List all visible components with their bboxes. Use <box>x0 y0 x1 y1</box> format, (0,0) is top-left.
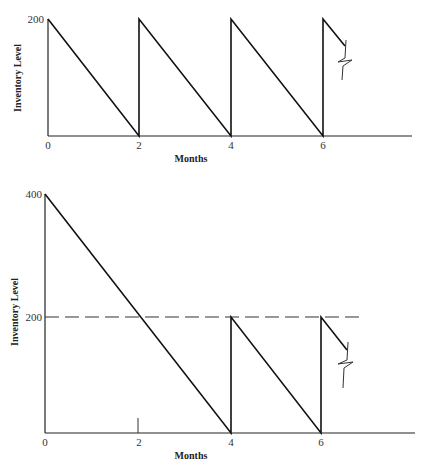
bottom-x-tick-2: 2 <box>136 436 142 448</box>
bottom-x-tick-6: 6 <box>318 436 324 448</box>
bottom-y-tick-200: 200 <box>26 311 43 323</box>
bottom-x-tick-0: 0 <box>42 436 48 448</box>
bottom-y-tick-400: 400 <box>26 188 43 200</box>
bottom-x-axis-label: Months <box>175 450 208 461</box>
top-x-axis-label: Months <box>175 153 208 164</box>
bottom-chart: 400 200 0 2 4 6 Months Inventory Level <box>9 188 415 461</box>
top-chart: 200 0 2 4 6 Months Inventory Level <box>12 13 412 164</box>
inventory-charts: 200 0 2 4 6 Months Inventory Level 400 2… <box>0 0 423 471</box>
bottom-y-axis-label: Inventory Level <box>9 278 20 346</box>
bottom-inventory-line <box>45 194 347 433</box>
bottom-x-tick-4: 4 <box>228 436 234 448</box>
top-y-tick-200: 200 <box>28 13 45 25</box>
top-y-axis-label: Inventory Level <box>12 44 23 112</box>
top-inventory-line <box>48 19 345 136</box>
top-x-tick-2: 2 <box>136 139 142 151</box>
top-x-tick-6: 6 <box>320 139 326 151</box>
top-x-tick-4: 4 <box>228 139 234 151</box>
top-x-tick-0: 0 <box>45 139 51 151</box>
